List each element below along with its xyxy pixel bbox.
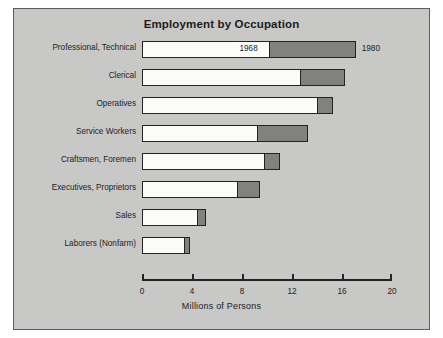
chart-title: Employment by Occupation: [14, 18, 429, 30]
bar-segment-1968: [142, 181, 238, 198]
category-label: Clerical: [109, 71, 136, 80]
x-axis-tick-label: 8: [240, 287, 245, 296]
plot-area: Professional, Technical19681980ClericalO…: [142, 39, 392, 279]
category-label: Operatives: [96, 99, 136, 108]
x-axis-tick-label: 20: [387, 287, 396, 296]
x-axis-title: Millions of Persons: [14, 301, 429, 311]
series-annotation-1980: 1980: [362, 44, 380, 53]
x-axis-tick: [242, 274, 244, 281]
chart-plate: Employment by Occupation Professional, T…: [13, 8, 430, 330]
series-annotation-1968: 1968: [240, 44, 258, 53]
category-label: Craftsmen, Foremen: [61, 155, 136, 164]
x-axis-tick-label: 4: [190, 287, 195, 296]
x-axis-tick-label: 16: [337, 287, 346, 296]
bar-row: Clerical: [142, 69, 392, 86]
bar-segment-1968: [142, 97, 318, 114]
x-axis-tick: [192, 274, 194, 281]
x-axis-tick-label: 12: [287, 287, 296, 296]
bar-row: Laborers (Nonfarm): [142, 237, 392, 254]
x-axis-tick: [390, 274, 392, 281]
bar-segment-1968: [142, 209, 198, 226]
bar-row: Professional, Technical19681980: [142, 41, 392, 58]
bar-row: Sales: [142, 209, 392, 226]
bar-row: Service Workers: [142, 125, 392, 142]
bar-row: Craftsmen, Foremen: [142, 153, 392, 170]
category-label: Executives, Proprietors: [52, 183, 136, 192]
chart-figure: Employment by Occupation Professional, T…: [0, 0, 443, 338]
bar-row: Operatives: [142, 97, 392, 114]
bar-segment-1968: [142, 153, 265, 170]
bar-segment-1968: [142, 125, 258, 142]
x-axis-tick-label: 0: [140, 287, 145, 296]
bar-row: Executives, Proprietors: [142, 181, 392, 198]
x-axis-tick: [342, 274, 344, 281]
bar-segment-1968: [142, 237, 185, 254]
bar-segment-1968: [142, 69, 301, 86]
x-axis-tick: [292, 274, 294, 281]
category-label: Laborers (Nonfarm): [65, 239, 136, 248]
category-label: Sales: [116, 211, 136, 220]
x-axis-tick: [142, 274, 144, 281]
category-label: Professional, Technical: [52, 43, 136, 52]
category-label: Service Workers: [76, 127, 136, 136]
x-axis-line: [142, 279, 392, 281]
